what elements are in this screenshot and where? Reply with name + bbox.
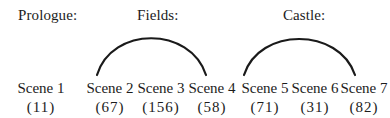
scene-count: (82) xyxy=(324,98,390,117)
arc-fields xyxy=(97,38,206,75)
arc-castle xyxy=(244,39,355,75)
scene-1: Scene 1 (11) xyxy=(1,79,81,117)
scene-label: Scene 7 xyxy=(340,80,387,96)
scene-count: (11) xyxy=(1,98,81,117)
scene-7: Scene 7 (82) xyxy=(324,79,390,117)
scene-label: Scene 1 xyxy=(17,80,64,96)
